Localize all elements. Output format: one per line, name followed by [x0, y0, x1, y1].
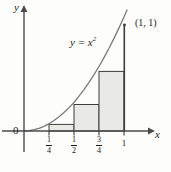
point-one-one-label: (1, 1) [135, 18, 157, 28]
curve-equation-label: y = x2 [70, 36, 96, 48]
fraction-one-quarter: 1 4 [46, 136, 52, 155]
y-axis-arrowhead [21, 5, 28, 12]
tick-label-quarter: 1 4 [38, 136, 60, 155]
fraction-denominator: 4 [96, 147, 102, 155]
fraction-denominator: 2 [71, 147, 77, 155]
point-one-one-marker [123, 24, 126, 27]
fraction-three-quarters: 3 4 [96, 136, 102, 155]
tick-value-one: 1 [122, 138, 127, 148]
tick-label-one: 1 [113, 138, 135, 148]
riemann-rect-1 [49, 124, 74, 131]
tick-label-three-quarters: 3 4 [88, 136, 110, 155]
fraction-numerator: 1 [71, 136, 77, 144]
x-axis-arrowhead [148, 128, 155, 135]
riemann-rect-3 [99, 71, 124, 131]
tick-label-half: 1 2 [63, 136, 85, 155]
y-axis-label: y [14, 2, 19, 13]
fraction-one-half: 1 2 [71, 136, 77, 155]
fraction-numerator: 3 [96, 136, 102, 144]
origin-label: 0 [13, 125, 19, 136]
riemann-sum-figure: y x 0 y = x2 (1, 1) 1 4 1 2 3 4 1 [0, 0, 171, 172]
curve-equation-exponent: 2 [93, 35, 97, 43]
fraction-denominator: 4 [46, 147, 52, 155]
x-axis-label: x [155, 129, 160, 140]
riemann-rect-2 [74, 105, 99, 132]
curve-equation-base: y = x [70, 36, 93, 48]
fraction-numerator: 1 [46, 136, 52, 144]
